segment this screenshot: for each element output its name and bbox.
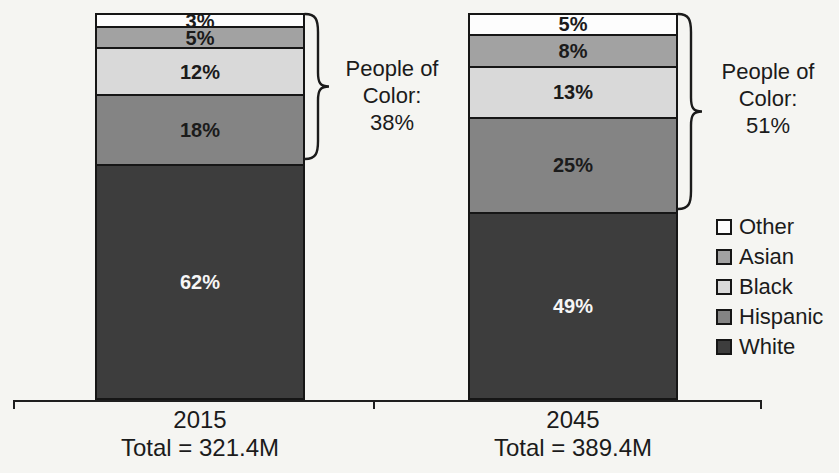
bar-segment-black-2045: 13% — [470, 68, 676, 119]
legend-label: Asian — [739, 244, 794, 270]
annotation-line: Color: — [307, 82, 477, 109]
bar-segment-other-2045: 5% — [470, 15, 676, 36]
annotation-line: People of — [683, 58, 839, 85]
x-axis-baseline — [13, 400, 762, 402]
segment-value-label: 8% — [559, 41, 588, 61]
legend-label: Other — [739, 214, 794, 240]
annotation-line: Color: — [683, 85, 839, 112]
category-label-2045: 2045Total = 389.4M — [413, 406, 733, 462]
legend-swatch-black — [716, 279, 732, 295]
legend-item-black: Black — [716, 272, 823, 302]
segment-value-label: 18% — [180, 120, 220, 140]
category-year: 2015 — [40, 406, 360, 434]
segment-value-label: 62% — [180, 272, 220, 292]
legend-item-other: Other — [716, 212, 823, 242]
x-axis-tick — [760, 400, 762, 409]
stacked-bar-chart-figure: 3%5%12%18%62%People ofColor:38%2015Total… — [0, 0, 839, 473]
annotation-people-of-color-2015: People ofColor:38% — [307, 55, 477, 136]
annotation-line: 38% — [307, 109, 477, 136]
category-year: 2045 — [413, 406, 733, 434]
legend-item-asian: Asian — [716, 242, 823, 272]
legend-label: Black — [739, 274, 793, 300]
legend-label: White — [739, 334, 795, 360]
bar-segment-white-2015: 62% — [97, 166, 303, 399]
x-axis-tick — [373, 400, 375, 409]
x-axis-tick — [13, 400, 15, 409]
segment-value-label: 12% — [180, 62, 220, 82]
legend-label: Hispanic — [739, 304, 823, 330]
legend-item-white: White — [716, 332, 823, 362]
segment-value-label: 5% — [559, 14, 588, 34]
bar-segment-hispanic-2045: 25% — [470, 119, 676, 215]
stacked-bar-2015: 3%5%12%18%62% — [95, 13, 305, 400]
legend-swatch-hispanic — [716, 309, 732, 325]
segment-value-label: 49% — [553, 296, 593, 316]
bar-segment-white-2045: 49% — [470, 214, 676, 398]
annotation-people-of-color-2045: People ofColor:51% — [683, 58, 839, 139]
segment-value-label: 5% — [186, 28, 215, 48]
legend: OtherAsianBlackHispanicWhite — [716, 212, 823, 362]
category-total: Total = 389.4M — [413, 434, 733, 462]
bar-segment-hispanic-2015: 18% — [97, 96, 303, 166]
legend-swatch-asian — [716, 249, 732, 265]
legend-swatch-other — [716, 219, 732, 235]
segment-value-label: 25% — [553, 155, 593, 175]
annotation-line: 51% — [683, 112, 839, 139]
category-label-2015: 2015Total = 321.4M — [40, 406, 360, 462]
legend-swatch-white — [716, 339, 732, 355]
bar-segment-black-2015: 12% — [97, 49, 303, 96]
stacked-bar-2045: 5%8%13%25%49% — [468, 13, 678, 400]
bar-segment-asian-2015: 5% — [97, 28, 303, 49]
category-total: Total = 321.4M — [40, 434, 360, 462]
legend-item-hispanic: Hispanic — [716, 302, 823, 332]
segment-value-label: 13% — [553, 82, 593, 102]
annotation-line: People of — [307, 55, 477, 82]
bar-segment-asian-2045: 8% — [470, 36, 676, 68]
